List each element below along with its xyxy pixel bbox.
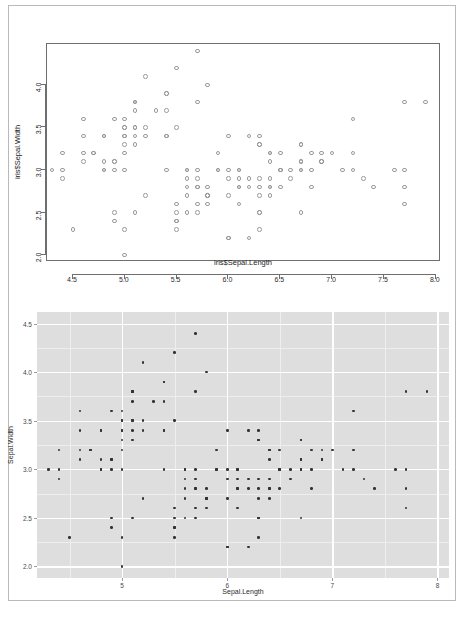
data-point <box>319 151 324 156</box>
data-point <box>257 142 262 147</box>
data-point <box>174 219 179 224</box>
gridline-major-vertical <box>332 312 333 578</box>
data-point <box>247 546 250 549</box>
data-point <box>112 219 117 224</box>
data-point <box>321 449 324 452</box>
data-point <box>194 517 197 520</box>
data-point <box>112 159 117 164</box>
data-point <box>194 507 197 510</box>
y-axis-tick-label: 4.0 <box>23 369 32 376</box>
y-axis-tick-label: 2.0 <box>36 253 43 263</box>
data-point <box>309 185 314 190</box>
x-axis-tick-label: 6.0 <box>223 276 233 283</box>
data-point <box>133 142 138 147</box>
data-point <box>131 439 134 442</box>
data-point <box>110 517 113 520</box>
data-point <box>79 429 82 432</box>
y-axis-tick-label: 4.0 <box>36 83 43 93</box>
gridline-major-horizontal <box>37 469 449 470</box>
data-point <box>257 517 260 520</box>
data-point <box>142 361 145 364</box>
data-point <box>81 151 86 156</box>
base-r-y-axis-title-text: iris$Sepal.Width <box>13 125 22 179</box>
data-point <box>89 449 92 452</box>
y-axis-tick-label: 3.5 <box>36 125 43 135</box>
data-point <box>215 449 218 452</box>
gridline-major-horizontal <box>37 372 449 373</box>
data-point <box>257 185 262 190</box>
data-point <box>112 210 117 215</box>
data-point <box>194 468 197 471</box>
data-point <box>402 100 407 105</box>
x-axis-tick-label: 7.0 <box>326 276 336 283</box>
x-axis-tick-label: 7.5 <box>378 276 388 283</box>
data-point <box>164 91 169 96</box>
data-point <box>110 468 113 471</box>
data-point <box>102 159 107 164</box>
data-point <box>81 134 86 139</box>
data-point <box>268 159 273 164</box>
data-point <box>257 176 262 181</box>
data-point <box>122 227 127 232</box>
data-point <box>194 487 197 490</box>
data-point <box>205 202 210 207</box>
gridline-minor-horizontal <box>37 494 449 495</box>
data-point <box>268 176 273 181</box>
data-point <box>184 487 187 490</box>
data-point <box>185 185 190 190</box>
data-point <box>299 210 304 215</box>
data-point <box>173 536 176 539</box>
data-point <box>122 134 127 139</box>
data-point <box>289 478 292 481</box>
data-point <box>205 83 210 88</box>
data-point <box>142 429 145 432</box>
x-axis-tick-label: 8.0 <box>430 276 440 283</box>
page-canvas: iris$Sepal.Width 2.02.53.03.54.0 4.55.05… <box>0 0 464 619</box>
data-point <box>164 108 169 113</box>
data-point <box>174 227 179 232</box>
gridline-major-horizontal <box>37 324 449 325</box>
data-point <box>60 168 65 173</box>
data-point <box>247 487 250 490</box>
data-point <box>310 487 313 490</box>
data-point <box>257 429 260 432</box>
data-point <box>247 478 250 481</box>
data-point <box>247 236 252 241</box>
data-point <box>81 159 86 164</box>
data-point <box>205 193 210 198</box>
data-point <box>143 125 148 130</box>
data-point <box>351 117 356 122</box>
data-point <box>257 439 260 442</box>
data-point <box>122 117 127 122</box>
data-point <box>68 536 71 539</box>
data-point <box>351 151 356 156</box>
data-point <box>194 478 197 481</box>
data-point <box>226 236 231 241</box>
data-point <box>122 151 127 156</box>
base-r-scatter-figure: iris$Sepal.Width 2.02.53.03.54.0 4.55.05… <box>14 30 450 295</box>
data-point <box>131 419 134 422</box>
data-point <box>133 108 138 113</box>
data-point <box>205 497 208 500</box>
data-point <box>402 185 407 190</box>
gridline-minor-vertical <box>280 312 281 578</box>
gridline-minor-horizontal <box>37 542 449 543</box>
data-point <box>247 429 250 432</box>
data-point <box>352 410 355 413</box>
data-point <box>184 497 187 500</box>
data-point <box>268 193 273 198</box>
data-point <box>79 449 82 452</box>
data-point <box>394 468 397 471</box>
data-point <box>426 390 429 393</box>
data-point <box>226 193 231 198</box>
data-point <box>373 487 376 490</box>
data-point <box>143 193 148 198</box>
x-axis-tick <box>332 578 333 581</box>
data-point <box>257 227 262 232</box>
data-point <box>236 478 239 481</box>
x-axis-tick-label: 4.5 <box>67 276 77 283</box>
data-point <box>299 159 304 164</box>
ggplot-x-axis-title-text: Sepal.Length <box>222 588 263 595</box>
data-point <box>131 517 134 520</box>
ggplot-x-axis-title: Sepal.Length <box>37 588 449 595</box>
